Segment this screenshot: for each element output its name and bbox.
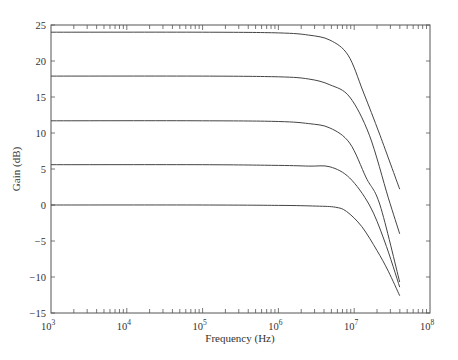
plot-area [51, 25, 430, 313]
y-tick-labels: 2520151050−5−10−15 [30, 20, 46, 319]
x-tick-label: 104 [117, 318, 132, 332]
gain-curve [51, 165, 400, 287]
x-tick-label: 106 [268, 318, 283, 332]
y-tick-label: 0 [41, 200, 46, 211]
x-axis-title: Frequency (Hz) [205, 332, 275, 345]
y-tick-label: 5 [41, 164, 46, 175]
gain-curve [51, 205, 400, 296]
y-tick-label: −15 [30, 308, 46, 319]
axis-ticks [51, 25, 430, 313]
x-tick-label: 108 [420, 318, 435, 332]
chart: 2520151050−5−10−15 103104105106107108 Fr… [0, 0, 458, 360]
data-series [51, 32, 400, 296]
y-tick-label: −10 [30, 272, 46, 283]
x-tick-label: 107 [344, 318, 359, 332]
y-axis-title: Gain (dB) [10, 147, 23, 192]
y-tick-label: 25 [36, 20, 47, 31]
y-tick-label: 10 [36, 128, 47, 139]
gain-curve [51, 76, 400, 234]
y-tick-label: −5 [35, 236, 46, 247]
x-tick-label: 105 [192, 318, 207, 332]
y-tick-label: 15 [36, 92, 47, 103]
gain-curve [51, 121, 400, 282]
y-tick-label: 20 [36, 56, 47, 67]
x-tick-labels: 103104105106107108 [41, 318, 435, 332]
gain-curve [51, 32, 400, 189]
x-tick-label: 103 [41, 318, 56, 332]
